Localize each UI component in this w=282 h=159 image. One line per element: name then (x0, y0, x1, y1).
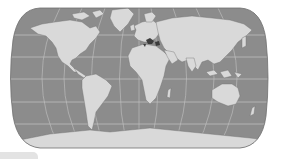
footer-tab (0, 152, 38, 159)
world-map (0, 0, 282, 159)
